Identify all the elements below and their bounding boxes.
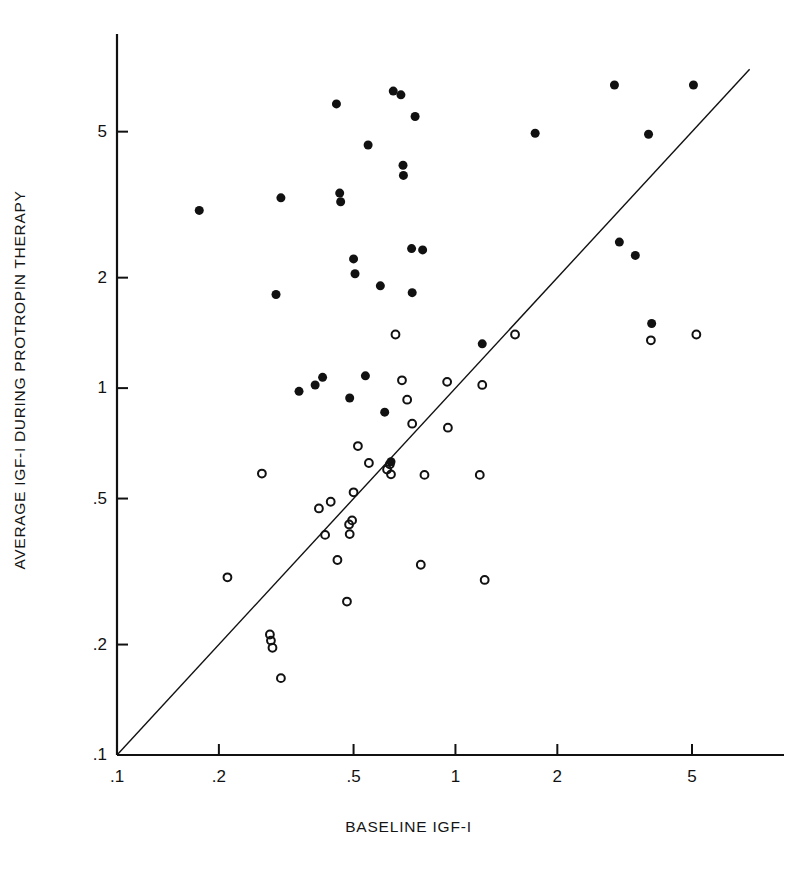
- x-axis-tick-label: .2: [212, 767, 226, 787]
- data-point-filled: [408, 288, 417, 297]
- data-point-open: [321, 531, 329, 539]
- series-open-circles: [224, 331, 701, 682]
- data-point-open: [647, 336, 655, 344]
- data-point-open: [417, 561, 425, 569]
- data-point-filled: [615, 238, 624, 247]
- data-point-open: [408, 420, 416, 428]
- data-point-filled: [396, 90, 405, 99]
- data-point-filled: [332, 99, 341, 108]
- scatter-plot-figure: AVERAGE IGF-I DURING PROTROPIN THERAPY B…: [0, 0, 787, 882]
- data-point-open: [511, 331, 519, 339]
- y-axis-tick-label: 5: [98, 122, 107, 142]
- data-point-filled: [295, 387, 304, 396]
- data-point-filled: [389, 87, 398, 96]
- data-point-filled: [399, 161, 408, 170]
- identity-reference-line: [117, 69, 750, 755]
- data-point-filled: [644, 130, 653, 139]
- data-point-filled: [318, 373, 327, 382]
- data-point-filled: [631, 251, 640, 260]
- data-point-filled: [195, 206, 204, 215]
- y-axis-tick-label: 1: [98, 378, 107, 398]
- data-point-open: [224, 573, 232, 581]
- data-point-filled: [272, 290, 281, 299]
- data-point-open: [421, 471, 429, 479]
- data-point-filled: [407, 244, 416, 253]
- data-point-filled: [380, 408, 389, 417]
- data-point-filled: [311, 380, 320, 389]
- x-axis-tick-label: .5: [346, 767, 360, 787]
- x-axis-tick-label: 1: [451, 767, 460, 787]
- data-point-open: [258, 470, 266, 478]
- x-axis-tick-label: 5: [687, 767, 696, 787]
- data-point-filled: [336, 197, 345, 206]
- y-axis-tick-label: .2: [93, 635, 107, 655]
- data-point-open: [343, 598, 351, 606]
- data-point-filled: [361, 371, 370, 380]
- data-point-open: [444, 424, 452, 432]
- data-point-filled: [349, 254, 358, 263]
- data-point-open: [277, 674, 285, 682]
- y-axis-tick-label: .1: [93, 745, 107, 765]
- data-point-open: [334, 556, 342, 564]
- data-point-open: [354, 442, 362, 450]
- data-point-filled: [399, 171, 408, 180]
- data-point-filled: [351, 269, 360, 278]
- data-point-open: [443, 378, 451, 386]
- data-point-open: [365, 459, 373, 467]
- data-point-open: [346, 530, 354, 538]
- data-point-filled: [411, 112, 420, 121]
- data-point-filled: [689, 81, 698, 90]
- data-point-open: [398, 376, 406, 384]
- y-axis-tick-label: 2: [98, 268, 107, 288]
- data-point-open: [315, 505, 323, 513]
- y-axis-tick-label: .5: [93, 489, 107, 509]
- data-point-open: [481, 576, 489, 584]
- x-axis-tick-label: .1: [110, 767, 124, 787]
- data-point-open: [392, 331, 400, 339]
- data-point-open: [692, 331, 700, 339]
- plot-canvas: [0, 0, 787, 882]
- data-point-filled: [478, 339, 487, 348]
- data-point-filled: [364, 140, 373, 149]
- data-point-filled: [276, 193, 285, 202]
- data-point-filled: [531, 129, 540, 138]
- data-point-filled: [376, 281, 385, 290]
- data-point-open: [476, 471, 484, 479]
- data-point-filled: [610, 81, 619, 90]
- x-axis-tick-label: 2: [553, 767, 562, 787]
- data-point-filled: [335, 189, 344, 198]
- data-point-open: [327, 498, 335, 506]
- data-point-filled: [345, 393, 354, 402]
- series-filled-circles: [195, 81, 698, 467]
- data-point-open: [350, 488, 358, 496]
- data-point-filled: [418, 245, 427, 254]
- data-point-filled: [647, 319, 656, 328]
- data-point-open: [478, 381, 486, 389]
- data-point-open: [403, 396, 411, 404]
